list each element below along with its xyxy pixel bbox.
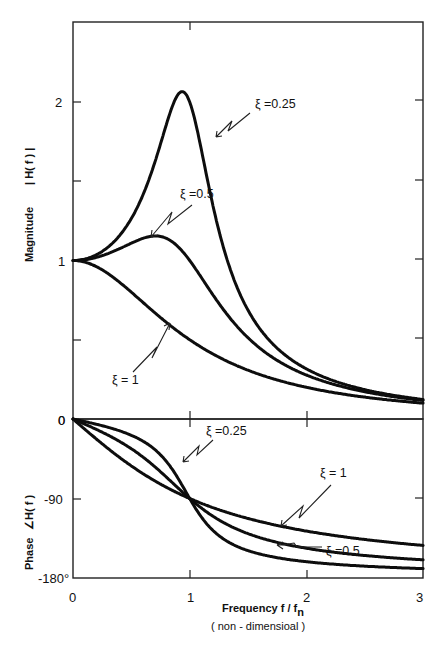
phase-tick-label-m90: -90 [44,492,63,507]
leader-mag-zeta-025 [216,113,250,137]
annot-phase-zeta-025: ξ =0.25 [206,424,247,438]
leader-phase-zeta-1 [281,485,331,526]
magnitude-curves [73,92,423,403]
phase-curve-zeta-1 [73,419,423,545]
mag-tick-label-2: 2 [55,95,62,110]
x-tick-label-1: 1 [187,590,194,605]
x-axis-subtitle: ( non - dimensioal ) [211,620,305,632]
mag-tick-label-1: 1 [58,254,65,269]
phase-curves [73,419,423,569]
annot-phase-zeta-1: ξ = 1 [320,466,347,480]
phase-plot-frame [73,419,423,578]
phase-ylabel-phase: Phase [23,538,35,570]
mag-ylabel-hf: | H( f ) | [23,148,35,185]
annot-mag-zeta-05: ξ =0.5 [180,187,214,201]
x-axis-title-main: Frequency f / f [222,602,298,614]
frequency-response-figure: 2 1 0 Magnitude | H( f ) | ξ =0.25 ξ =0.… [0,0,441,647]
phase-ylabel-hf: ∠H( f ) [23,495,35,530]
mag-ylabel-magnitude: Magnitude [23,207,35,262]
phase-tick-label-m180: -180° [38,571,69,586]
annot-mag-zeta-1: ξ = 1 [112,373,139,387]
phase-curve-zeta-0.25 [73,419,423,569]
magnitude-plot-frame [73,22,423,419]
phase-tick-label-0: 0 [58,413,65,428]
x-axis-title-subscript: n [297,606,304,618]
leader-phase-zeta-025 [183,440,213,462]
annot-phase-zeta-05: ξ =0.5 [326,544,360,558]
x-tick-label-3: 3 [416,590,423,605]
leader-mag-zeta-05 [151,205,192,237]
x-tick-label-0: 0 [69,590,76,605]
x-axis: 0 1 2 3 Frequency f / fn ( non - dimensi… [69,590,423,632]
phase-panel: 0 -90 -180° Phase ∠H( f ) ξ =0.25 ξ = 1 … [23,413,423,586]
magnitude-panel: 2 1 0 Magnitude | H( f ) | ξ =0.25 ξ =0.… [23,22,423,428]
x-tick-label-2: 2 [303,590,310,605]
leader-mag-zeta-1 [133,323,170,372]
annot-mag-zeta-025: ξ =0.25 [255,97,296,111]
x-axis-title: Frequency f / fn [222,602,304,618]
